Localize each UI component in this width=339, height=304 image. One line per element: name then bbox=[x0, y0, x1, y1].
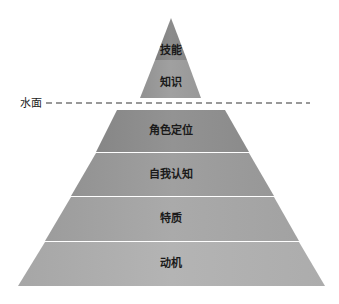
layer-self-concept: 自我认知 bbox=[71, 153, 274, 196]
water-line: 水面 bbox=[20, 97, 310, 110]
layer-role-label: 角色定位 bbox=[149, 123, 193, 137]
layer-traits: 特质 bbox=[45, 197, 299, 241]
layer-role: 角色定位 bbox=[96, 110, 249, 152]
layer-knowledge: 知识 bbox=[140, 60, 201, 98]
layer-skill: 技能 bbox=[155, 18, 187, 60]
layer-skill-label: 技能 bbox=[160, 43, 182, 57]
layer-self-concept-label: 自我认知 bbox=[149, 167, 193, 181]
iceberg-diagram: 技能 知识 水面 角色定位 自我认知 特质 动机 bbox=[0, 0, 339, 304]
water-line-label: 水面 bbox=[20, 97, 42, 110]
layer-motive: 动机 bbox=[18, 242, 325, 286]
layer-motive-label: 动机 bbox=[160, 256, 182, 270]
layer-knowledge-label: 知识 bbox=[159, 75, 182, 89]
layer-traits-label: 特质 bbox=[160, 211, 182, 225]
